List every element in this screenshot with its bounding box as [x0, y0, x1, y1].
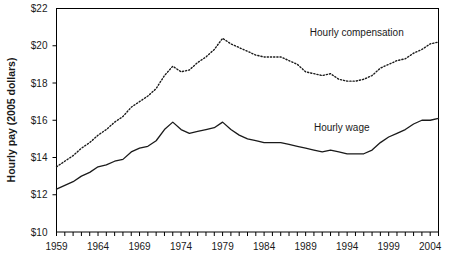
y-axis-title: Hourly pay (2005 dollars) [5, 58, 17, 183]
y-axis-tick-label: $12 [31, 189, 48, 200]
line-chart: Hourly pay (2005 dollars) $10$12$14$16$1… [0, 0, 455, 273]
x-axis-tick-label: 1999 [378, 241, 401, 252]
x-axis-tick-label: 1984 [253, 241, 276, 252]
x-axis-tick-label: 1964 [87, 241, 110, 252]
y-axis-tick-label: $18 [31, 78, 48, 89]
x-axis-tick-label: 1974 [170, 241, 193, 252]
x-axis-tick-label: 1989 [295, 241, 318, 252]
x-axis-tick-label: 1959 [45, 241, 68, 252]
y-axis-tick-label: $16 [31, 115, 48, 126]
x-axis-tick-label: 1969 [128, 241, 151, 252]
y-axis-tick-label: $14 [31, 152, 48, 163]
x-axis-tick-label: 1994 [336, 241, 359, 252]
series-label-hourly-wage: Hourly wage [314, 122, 370, 133]
chart-figure: Hourly pay (2005 dollars) $10$12$14$16$1… [0, 0, 455, 273]
x-axis-tick-label: 2004 [419, 241, 442, 252]
y-axis-title-text: Hourly pay (2005 dollars) [5, 58, 17, 183]
y-axis-tick-label: $20 [31, 40, 48, 51]
series-label-hourly-compensation: Hourly compensation [310, 27, 404, 38]
y-axis-tick-label: $22 [31, 3, 48, 14]
x-axis-tick-label: 1979 [211, 241, 234, 252]
y-axis-tick-label: $10 [31, 227, 48, 238]
